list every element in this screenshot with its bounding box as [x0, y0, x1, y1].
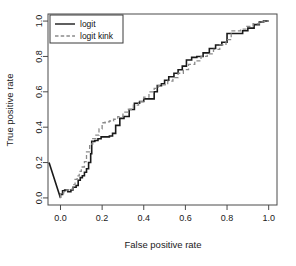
x-tick-label: 0.4: [138, 213, 151, 223]
legend-label-logit: logit: [80, 19, 96, 29]
x-tick-label: 1.0: [262, 213, 275, 223]
y-tick-label: 1.0: [34, 15, 44, 28]
chart-legend: logitlogit kink: [50, 15, 123, 43]
legend-label-logit-kink: logit kink: [80, 31, 114, 41]
roc-chart-figure: 0.00.20.40.60.81.0 0.00.20.40.60.81.0 Fa…: [0, 0, 296, 266]
y-axis-title: True positive rate: [4, 73, 15, 146]
roc-plot-svg: 0.00.20.40.60.81.0 0.00.20.40.60.81.0 Fa…: [0, 0, 296, 266]
y-tick-label: 0.6: [34, 86, 44, 99]
y-tick-label: 0.2: [34, 156, 44, 169]
y-tick-label: 0.0: [34, 192, 44, 205]
x-axis-title: False positive rate: [124, 239, 201, 250]
y-tick-label: 0.8: [34, 50, 44, 63]
y-tick-label: 0.4: [34, 121, 44, 134]
x-tick-label: 0.0: [54, 213, 67, 223]
x-tick-label: 0.2: [96, 213, 109, 223]
x-tick-label: 0.8: [221, 213, 234, 223]
x-tick-label: 0.6: [179, 213, 192, 223]
figure-background: [0, 0, 296, 266]
